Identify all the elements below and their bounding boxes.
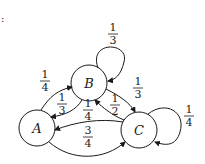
label-b-b: 1 3 xyxy=(108,21,118,47)
svg-text:1: 1 xyxy=(42,68,49,81)
corner-mark: : xyxy=(1,13,4,24)
svg-text:3: 3 xyxy=(135,88,142,101)
svg-text:3: 3 xyxy=(110,34,117,47)
svg-text:1: 1 xyxy=(186,103,193,116)
edge-c-b xyxy=(95,100,124,120)
svg-text:1: 1 xyxy=(59,91,66,104)
node-a: A xyxy=(19,110,55,146)
svg-text:1: 1 xyxy=(85,97,92,110)
svg-text:4: 4 xyxy=(186,116,193,129)
svg-text:1: 1 xyxy=(112,92,119,105)
node-a-label: A xyxy=(31,121,41,136)
edge-b-a xyxy=(51,100,82,117)
svg-text:1: 1 xyxy=(135,75,142,88)
svg-text:2: 2 xyxy=(112,105,119,118)
node-b: B xyxy=(71,65,107,101)
node-b-label: B xyxy=(83,76,94,91)
svg-text:3: 3 xyxy=(59,104,66,117)
svg-text:3: 3 xyxy=(85,124,92,137)
label-a-c: 3 4 xyxy=(83,124,93,150)
node-c-label: C xyxy=(134,123,144,138)
state-diagram: : A B C 1 3 1 4 xyxy=(0,0,205,164)
svg-text:4: 4 xyxy=(85,110,92,123)
svg-text:1: 1 xyxy=(110,21,117,34)
node-c: C xyxy=(121,112,157,148)
svg-text:4: 4 xyxy=(42,81,49,94)
label-a-b: 1 4 xyxy=(40,68,50,94)
label-c-c: 1 4 xyxy=(184,103,194,129)
label-b-c: 1 3 xyxy=(133,75,143,101)
svg-text:4: 4 xyxy=(85,137,92,150)
edge-b-c xyxy=(106,89,135,112)
